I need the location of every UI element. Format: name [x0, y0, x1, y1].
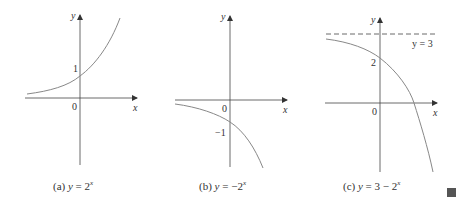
tick-label-2: 2: [371, 57, 376, 68]
x-axis-label: x: [432, 107, 438, 118]
caption-eq: = 2: [76, 180, 90, 192]
caption-prefix: (a): [53, 180, 65, 192]
caption-prefix: (b): [199, 180, 212, 192]
caption-lhs: y: [358, 180, 363, 192]
origin-label: 0: [222, 103, 227, 114]
y-axis-label: y: [370, 14, 376, 25]
origin-label: 0: [372, 106, 377, 117]
panel-a: y x 0 1: [25, 10, 138, 165]
caption-eq: = −2: [222, 180, 243, 192]
y-axis-label: y: [220, 11, 226, 22]
caption-b: (b) y = −2x: [199, 179, 246, 192]
x-axis-label: x: [282, 104, 288, 115]
origin-label: 0: [72, 101, 77, 112]
tick-label-1: 1: [73, 63, 78, 74]
caption-prefix: (c): [343, 180, 355, 192]
caption-lhs: y: [68, 180, 73, 192]
figure-canvas: y x 0 1 y x 0 −1 y x 0 2 y = 3: [0, 0, 460, 205]
caption-exp: x: [243, 179, 246, 187]
tick-label-neg1: −1: [215, 127, 226, 138]
panel-c: y x 0 2 y = 3: [325, 14, 438, 172]
caption-exp: x: [397, 179, 400, 187]
qed-square-icon: [447, 188, 456, 197]
curve-3-minus-2-pow-x: [326, 39, 433, 172]
caption-c: (c) y = 3 − 2x: [343, 179, 400, 192]
caption-lhs: y: [215, 180, 220, 192]
x-axis-label: x: [132, 102, 138, 113]
asymptote-label: y = 3: [412, 38, 433, 49]
y-axis-label: y: [70, 10, 76, 21]
curve-2-pow-x: [27, 18, 120, 94]
caption-eq: = 3 − 2: [366, 180, 398, 192]
caption-a: (a) y = 2x: [53, 179, 93, 192]
panel-b: y x 0 −1: [175, 11, 288, 168]
caption-exp: x: [90, 179, 93, 187]
